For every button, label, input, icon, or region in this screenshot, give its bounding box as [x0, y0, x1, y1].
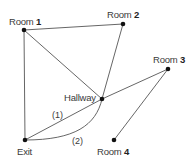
label-room4: Room 4	[97, 147, 129, 157]
edge-room3-hallway	[102, 69, 168, 99]
edge-room1-hallway	[24, 30, 102, 99]
label-hallway: Hallway	[64, 93, 96, 103]
node-room2	[121, 22, 126, 27]
label-exit-text: Exit	[17, 146, 32, 157]
label-room3-number: 3	[180, 54, 185, 65]
edge-label-path1: (1)	[52, 111, 63, 120]
label-room2: Room 2	[107, 10, 139, 20]
label-room2-number: 2	[134, 9, 139, 20]
label-hallway-text: Hallway	[64, 92, 96, 103]
edge-room3-room4	[114, 69, 168, 140]
label-room1: Room 1	[9, 17, 41, 27]
node-room1	[22, 28, 27, 33]
label-room4-number: 4	[124, 146, 129, 157]
label-room3-prefix: Room	[153, 54, 178, 65]
label-room1-prefix: Room	[9, 16, 34, 27]
edge-room1-exit	[24, 30, 25, 140]
node-room3	[166, 67, 171, 72]
label-room2-prefix: Room	[107, 9, 132, 20]
label-room4-prefix: Room	[97, 146, 122, 157]
node-hallway	[100, 97, 105, 102]
edge-room2-hallway	[102, 24, 123, 99]
edge-label-path2: (2)	[72, 137, 83, 146]
label-room3: Room 3	[153, 55, 185, 65]
edge-hallway-exit-path1	[25, 99, 102, 140]
node-exit	[23, 138, 28, 143]
label-exit: Exit	[17, 147, 32, 157]
node-room4	[112, 138, 117, 143]
label-room1-number: 1	[36, 16, 41, 27]
